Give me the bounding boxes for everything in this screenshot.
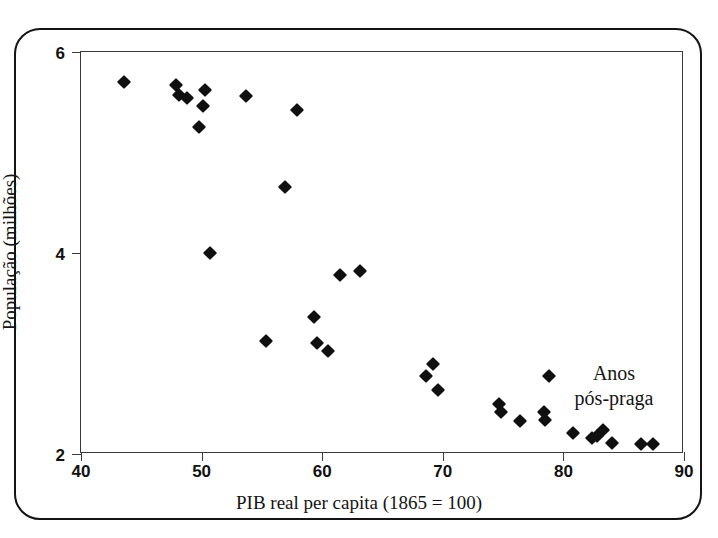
data-point — [258, 334, 272, 348]
data-point — [426, 356, 440, 370]
data-point — [307, 310, 321, 324]
data-point — [605, 436, 619, 450]
data-point — [333, 268, 347, 282]
plot-annotation-line2: pós-praga — [575, 386, 654, 411]
data-point — [192, 120, 206, 134]
x-axis-tick-label: 80 — [554, 463, 573, 480]
x-axis-tick — [81, 452, 82, 461]
x-axis-tick-label: 60 — [313, 463, 332, 480]
data-point — [353, 264, 367, 278]
x-axis-tick-label: 40 — [72, 463, 91, 480]
data-point — [239, 89, 253, 103]
y-axis-tick: 6 — [72, 52, 81, 53]
y-axis-tick-label: 4 — [56, 246, 65, 263]
y-axis-tick-label: 2 — [56, 447, 65, 464]
x-axis-tick-label: 90 — [675, 463, 694, 480]
figure: 246405060708090Anospós-praga População (… — [0, 0, 718, 538]
data-point — [203, 246, 217, 260]
x-axis-tick — [563, 452, 564, 461]
data-point — [542, 369, 556, 383]
x-axis-tick-label: 70 — [433, 463, 452, 480]
x-axis-tick — [322, 452, 323, 461]
x-axis-tick — [443, 452, 444, 461]
plot-annotation-line1: Anos — [575, 360, 654, 385]
data-point — [196, 99, 210, 113]
plot-area: 246405060708090Anospós-praga — [80, 51, 683, 453]
x-axis-tick — [202, 452, 203, 461]
data-point — [513, 414, 527, 428]
data-point — [290, 103, 304, 117]
y-axis-tick: 2 — [72, 454, 81, 455]
data-point — [117, 75, 131, 89]
x-axis-tick — [684, 452, 685, 461]
x-axis-title: PIB real per capita (1865 = 100) — [0, 492, 718, 514]
data-point — [419, 369, 433, 383]
data-point — [431, 383, 445, 397]
data-point — [321, 344, 335, 358]
data-point — [566, 426, 580, 440]
y-axis-tick: 4 — [72, 253, 81, 254]
y-axis-tick-label: 6 — [56, 45, 65, 62]
data-point — [278, 180, 292, 194]
x-axis-tick-label: 50 — [192, 463, 211, 480]
data-point — [198, 83, 212, 97]
plot-annotation: Anospós-praga — [575, 360, 654, 410]
data-point — [646, 437, 660, 451]
y-axis-title: População (milhões) — [0, 174, 21, 331]
